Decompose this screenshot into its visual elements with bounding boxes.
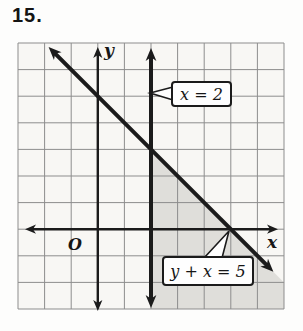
callout-y-plus-x-equals-5-text: y + x = 5 [170,262,245,281]
coordinate-graph-canvas [0,0,303,331]
origin-label: O [68,237,82,253]
x-axis-label: x [267,234,277,251]
callout-x-equals-2-text: x = 2 [180,85,223,104]
callout-x-equals-2: x = 2 [171,81,232,107]
y-axis-label: y [104,42,114,59]
callout-y-plus-x-equals-5: y + x = 5 [162,256,254,286]
textbook-figure: 15. y x O x = 2 y + x = 5 [0,0,303,331]
